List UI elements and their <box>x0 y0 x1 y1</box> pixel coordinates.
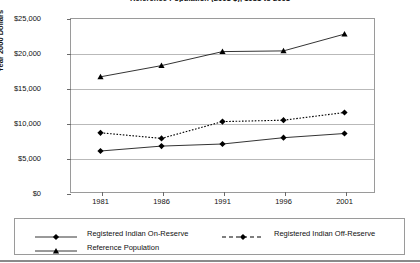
series-layer <box>70 18 375 193</box>
series-line <box>101 113 345 139</box>
legend-marker <box>53 234 59 240</box>
series-3 <box>97 31 347 79</box>
y-axis-tick-label: $20,000 <box>14 49 41 58</box>
x-axis-tick-label: 1986 <box>142 197 182 206</box>
data-point <box>158 135 164 141</box>
y-axis-tick-label: $25,000 <box>14 14 41 23</box>
data-point <box>341 130 347 136</box>
x-axis-tick-label: 1981 <box>81 197 121 206</box>
data-point <box>158 143 164 149</box>
legend-symbol-2 <box>220 228 266 238</box>
x-axis-tick-label: 2001 <box>325 197 365 206</box>
legend-label-2: Registered Indian Off-Reserve <box>274 229 375 238</box>
data-point <box>97 148 103 154</box>
data-point <box>341 109 347 115</box>
legend-symbol-1 <box>33 228 79 238</box>
data-point <box>280 117 286 123</box>
y-axis-title: Year 2000 Dollars <box>0 10 5 72</box>
series-2 <box>97 109 347 141</box>
data-point <box>341 31 347 37</box>
data-point <box>219 141 225 147</box>
chart-legend: Registered Indian On-ReserveRegistered I… <box>14 218 405 255</box>
y-axis-tick-label: $0 <box>33 189 41 198</box>
y-axis-tick-label: $10,000 <box>14 119 41 128</box>
y-axis-tick-label: $15,000 <box>14 84 41 93</box>
footer-divider <box>0 260 420 262</box>
chart-title: Reference Population (2001 $), 1981 to 2… <box>0 0 420 2</box>
series-1 <box>97 130 347 154</box>
x-axis-tick-label: 1996 <box>264 197 304 206</box>
legend-symbol-3 <box>33 242 79 252</box>
legend-label-3: Reference Population <box>87 243 159 252</box>
data-point <box>97 130 103 136</box>
data-point <box>280 135 286 141</box>
data-point <box>219 119 225 125</box>
legend-label-1: Registered Indian On-Reserve <box>87 229 188 238</box>
y-axis-tick <box>67 194 71 195</box>
y-axis-tick-label: $5,000 <box>18 154 41 163</box>
series-line <box>101 34 345 77</box>
x-axis-tick-label: 1991 <box>203 197 243 206</box>
legend-marker <box>240 234 246 240</box>
